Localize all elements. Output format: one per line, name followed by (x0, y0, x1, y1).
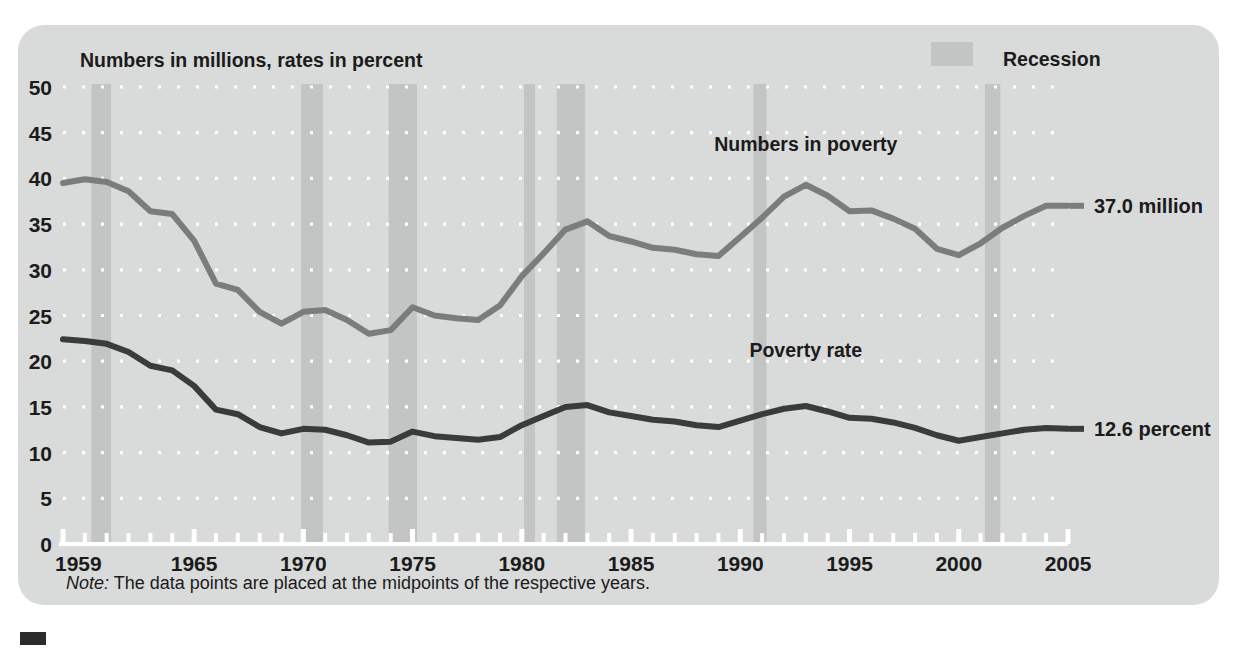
y-axis-label: 30 (29, 259, 52, 282)
recession-band (985, 84, 1000, 544)
y-axis-label: 25 (29, 305, 53, 328)
x-axis-label: 2000 (935, 552, 982, 575)
recession-legend-label: Recession (1003, 48, 1101, 70)
poverty-chart: 5045403530252015105019591965197019751980… (0, 0, 1237, 651)
end-label-million: 37.0 million (1094, 195, 1203, 217)
recession-band (524, 84, 535, 544)
x-axis-label: 1975 (389, 552, 436, 575)
y-axis-label: 20 (29, 350, 52, 373)
page-corner-mark (20, 632, 46, 645)
y-axis-label: 0 (40, 533, 52, 556)
header-note: Numbers in millions, rates in percent (80, 49, 423, 71)
footnote-prefix: Note: (66, 573, 109, 593)
footnote-body: The data points are placed at the midpoi… (109, 573, 650, 593)
x-axis-label: 2005 (1045, 552, 1092, 575)
y-axis-label: 40 (29, 167, 52, 190)
y-axis-label: 15 (29, 396, 53, 419)
recession-legend-swatch (931, 42, 973, 66)
numbers-in-poverty-label: Numbers in poverty (714, 133, 897, 155)
y-axis-label: 35 (29, 213, 53, 236)
footnote: Note: The data points are placed at the … (66, 573, 650, 593)
y-axis-label: 50 (29, 76, 52, 99)
x-axis-label: 1995 (826, 552, 873, 575)
figure-page: 5045403530252015105019591965197019751980… (0, 0, 1237, 651)
y-axis-label: 5 (40, 487, 52, 510)
x-axis-label: 1980 (498, 552, 545, 575)
x-axis-label: 1970 (280, 552, 327, 575)
x-axis-label: 1985 (608, 552, 655, 575)
recession-band (557, 84, 585, 544)
x-axis-label: 1959 (55, 552, 102, 575)
y-axis-label: 10 (29, 442, 52, 465)
x-axis-label: 1990 (717, 552, 764, 575)
end-label-percent: 12.6 percent (1094, 418, 1211, 440)
x-axis-label: 1965 (171, 552, 218, 575)
poverty-rate-label: Poverty rate (749, 339, 862, 361)
y-axis-label: 45 (29, 122, 53, 145)
